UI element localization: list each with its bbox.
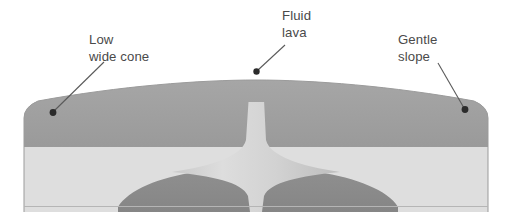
label-gentle-slope-line2: slope — [398, 49, 430, 64]
shield-volcano-diagram: Low wide cone Fluid lava Gentle slope — [0, 0, 511, 212]
leader-dot-fluid-lava — [253, 68, 259, 74]
label-low-wide-cone-line2: wide cone — [88, 49, 149, 64]
volcano-cross-section-svg: Low wide cone Fluid lava Gentle slope — [0, 0, 511, 212]
leader-dot-gentle-slope — [462, 106, 469, 113]
label-fluid-lava-line2: lava — [282, 25, 307, 40]
label-low-wide-cone-line1: Low — [89, 32, 114, 47]
leader-line-fluid-lava — [258, 45, 285, 70]
label-fluid-lava: Fluid lava — [253, 8, 311, 75]
leader-dot-low-wide-cone — [50, 109, 57, 116]
label-fluid-lava-line1: Fluid — [282, 8, 311, 23]
label-gentle-slope-line1: Gentle — [398, 32, 437, 47]
